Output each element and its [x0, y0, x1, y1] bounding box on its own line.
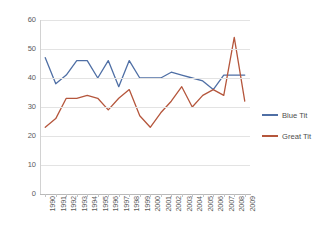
series-line-blue-tit	[45, 58, 245, 90]
x-axis-tick-label: 2006	[216, 196, 225, 212]
y-axis-tick-label: 0	[6, 190, 36, 198]
x-axis-tick-label: 2008	[237, 196, 246, 212]
x-axis-tick-labels: 1990199119921993199419951996199719981999…	[40, 196, 251, 241]
y-axis-tick-label: 40	[6, 74, 36, 82]
y-axis-line	[40, 20, 41, 195]
x-axis-tick-label: 2001	[164, 196, 173, 212]
x-axis-tick-label: 2007	[227, 196, 236, 212]
x-axis-tick-label: 1998	[132, 196, 141, 212]
x-axis-tick-label: 1991	[59, 196, 68, 212]
gridline	[40, 78, 250, 79]
legend-item-label: Blue Tit	[282, 111, 307, 120]
chart-legend: Blue TitGreat Tit	[262, 108, 330, 150]
gridline	[40, 136, 250, 137]
legend-color-swatch	[262, 135, 278, 137]
line-chart: 0102030405060 19901991199219931994199519…	[0, 0, 333, 241]
gridline	[40, 165, 250, 166]
x-axis-tick-label: 2003	[185, 196, 194, 212]
legend-item-great-tit[interactable]: Great Tit	[262, 129, 330, 143]
x-axis-tick-label: 1999	[143, 196, 152, 212]
gridline	[40, 20, 250, 21]
x-axis-tick-label: 2005	[206, 196, 215, 212]
x-axis-tick-label: 2002	[174, 196, 183, 212]
y-axis-tick-label: 50	[6, 45, 36, 53]
y-axis-tick-labels: 0102030405060	[0, 0, 36, 241]
plot-area	[40, 20, 250, 194]
y-axis-tick-label: 30	[6, 103, 36, 111]
gridline	[40, 107, 250, 108]
x-axis-tick-label: 2000	[153, 196, 162, 212]
series-line-great-tit	[45, 37, 245, 127]
y-axis-tick-label: 60	[6, 16, 36, 24]
gridline	[40, 49, 250, 50]
x-axis-tick-label: 1992	[69, 196, 78, 212]
x-axis-tick-label: 1997	[122, 196, 131, 212]
legend-item-label: Great Tit	[282, 132, 311, 141]
x-axis-tick-label: 1996	[111, 196, 120, 212]
x-axis-tick-label: 1994	[90, 196, 99, 212]
x-axis-tick-label: 2004	[195, 196, 204, 212]
legend-color-swatch	[262, 114, 278, 116]
x-axis-tick-label: 1995	[101, 196, 110, 212]
y-axis-tick-label: 10	[6, 161, 36, 169]
y-axis-tick-label: 20	[6, 132, 36, 140]
legend-item-blue-tit[interactable]: Blue Tit	[262, 108, 330, 122]
x-axis-tick-label: 1990	[48, 196, 57, 212]
x-axis-tick-label: 2009	[248, 196, 257, 212]
x-axis-tick-label: 1993	[80, 196, 89, 212]
